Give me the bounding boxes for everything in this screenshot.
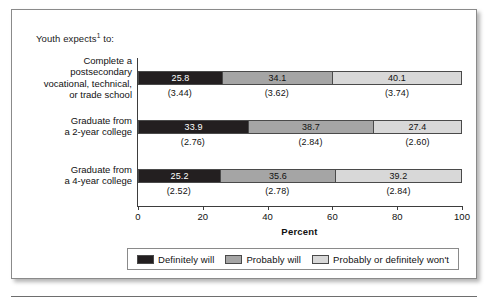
legend-swatch-icon [312,255,329,264]
figure-panel: Youth expects1 to: Complete apostseconda… [11,9,477,279]
bar-segment: 39.2 [335,170,461,182]
x-axis-title: Percent [137,226,462,237]
bar-segment-value: 38.7 [302,123,320,132]
standard-error-value: (2.84) [335,184,462,197]
stacked-bar: 33.938.727.4 [138,120,462,134]
category-axis-labels: Complete apostsecondaryvocational, techn… [12,58,136,206]
x-axis-tick [268,206,269,210]
bar-segment-value: 40.1 [388,74,406,83]
standard-error-value: (3.44) [138,86,222,99]
standard-error-strip: (3.44)(3.62)(3.74) [138,86,462,99]
legend-swatch-icon [225,255,242,264]
standard-error-value: (2.76) [138,135,248,148]
category-label-line: a 4-year college [64,175,132,186]
legend-item: Definitely will [137,254,214,265]
bar-segment: 25.2 [139,170,220,182]
bar-segment: 35.6 [220,170,335,182]
bar-segment-value: 27.4 [408,123,426,132]
legend-label: Probably or definitely won't [333,254,449,265]
bar-segment-value: 34.1 [269,74,287,83]
bar-segment: 33.9 [139,121,248,133]
x-axis-tick-label: 60 [327,211,338,222]
bar-segment-value: 39.2 [389,172,407,181]
bar-segment: 25.8 [139,72,222,84]
category-label-line: Graduate from [64,164,132,175]
bar-segment: 38.7 [248,121,373,133]
legend-swatch-icon [137,255,154,264]
bar-segment: 34.1 [222,72,332,84]
footer-rule [11,296,477,297]
x-axis-tick-label: 20 [198,211,209,222]
x-axis-tick-label: 100 [454,211,470,222]
category-label-line: Graduate from [64,115,132,126]
standard-error-value: (2.78) [220,184,335,197]
category-label: Complete apostsecondaryvocational, techn… [44,55,132,100]
bar-segment-value: 25.8 [172,74,190,83]
x-axis-tick [332,206,333,210]
legend-item: Probably will [225,254,301,265]
bar-segment-value: 25.2 [171,172,189,181]
standard-error-value: (2.84) [248,135,373,148]
legend-label: Probably will [246,254,301,265]
x-axis-tick [203,206,204,210]
header-note-text: Youth expects [36,33,97,44]
bar-segment: 40.1 [332,72,461,84]
standard-error-strip: (2.52)(2.78)(2.84) [138,184,462,197]
category-label-line: postsecondary [44,66,132,77]
standard-error-value: (3.62) [222,86,332,99]
category-label-line: Complete a [44,55,132,66]
x-axis-tick [397,206,398,210]
x-axis-tick [462,206,463,210]
standard-error-value: (2.52) [138,184,220,197]
legend-label: Definitely will [158,254,214,265]
figure-header-note: Youth expects1 to: [36,33,114,44]
plot-area: 25.834.140.1(3.44)(3.62)(3.74)33.938.727… [137,58,462,206]
chart-legend: Definitely willProbably willProbably or … [127,248,459,270]
category-label-line: or trade school [44,89,132,100]
category-label: Graduate froma 2-year college [64,115,132,138]
bar-row: 33.938.727.4(2.76)(2.84)(2.60) [138,120,462,134]
stacked-bar: 25.235.639.2 [138,169,462,183]
x-axis-line [137,206,462,207]
category-label: Graduate froma 4-year college [64,164,132,187]
bar-segment-value: 33.9 [185,123,203,132]
stacked-bar: 25.834.140.1 [138,71,462,85]
bar-row: 25.834.140.1(3.44)(3.62)(3.74) [138,71,462,85]
header-note-tail: to: [100,33,114,44]
standard-error-value: (2.60) [373,135,462,148]
x-axis-tick [138,206,139,210]
bar-segment: 27.4 [373,121,461,133]
x-axis-tick-label: 40 [262,211,273,222]
x-axis-tick-label: 80 [392,211,403,222]
legend-item: Probably or definitely won't [312,254,449,265]
category-label-line: a 2-year college [64,126,132,137]
bar-segment-value: 35.6 [269,172,287,181]
standard-error-strip: (2.76)(2.84)(2.60) [138,135,462,148]
category-label-line: vocational, technical, [44,78,132,89]
standard-error-value: (3.74) [332,86,462,99]
bar-row: 25.235.639.2(2.52)(2.78)(2.84) [138,169,462,183]
x-axis-tick-label: 0 [135,211,140,222]
